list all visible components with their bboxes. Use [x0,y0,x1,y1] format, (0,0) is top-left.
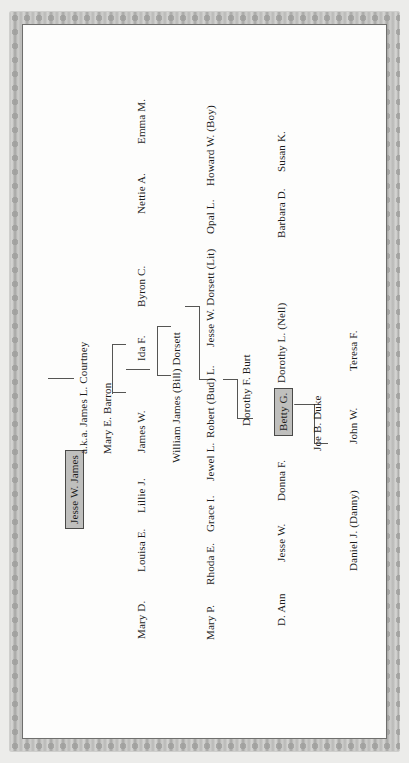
person-mary-e-barron[interactable]: Mary E. Barron [102,383,113,454]
person-d-ann[interactable]: D. Ann [276,593,287,626]
person-jewel-l[interactable]: Jewel L. [205,443,216,481]
person-john-w[interactable]: John W. [348,408,359,444]
family-tree-page: Jesse W. James a.k.a. James L. Courtney … [0,0,409,763]
person-nettie-a[interactable]: Nettie A. [136,173,147,214]
person-dorothy-l-nell[interactable]: Dorothy L. (Nell) [276,303,287,383]
person-jesse-w-dorsett-lit[interactable]: Jesse W. Dorsett (Lit) [205,249,216,347]
chart-canvas: Jesse W. James a.k.a. James L. Courtney … [24,26,385,737]
person-jesse-w-james[interactable]: Jesse W. James [65,450,84,529]
person-joe-b-duke[interactable]: Joe B. Duke [312,395,323,451]
connector-gen4-bracket-vertical [157,326,158,376]
person-aka-james-l-courtney[interactable]: a.k.a. James L. Courtney [78,342,89,454]
person-grace-i[interactable]: Grace I. [205,495,216,532]
person-louisa-e[interactable]: Louisa E. [136,529,147,572]
connector-gen6-bracket-vertical [237,379,238,419]
connector-gen5-union-vertical [199,306,200,380]
person-teresa-f[interactable]: Teresa F. [348,330,359,371]
connector-gen5-union-top [185,306,200,307]
person-opal-l[interactable]: Opal L. [205,199,216,234]
person-daniel-j-danny[interactable]: Daniel J. (Danny) [348,490,359,571]
connector-gen3-to-gen4 [126,369,150,370]
person-ida-f[interactable]: Ida F. [136,335,147,361]
connector-gen4-bracket-top [157,326,171,327]
person-dorothy-f-burt[interactable]: Dorothy F. Burt [241,354,252,426]
person-barbara-d[interactable]: Barbara D. [276,188,287,238]
connector-gen4-bracket-bottom [157,375,171,376]
person-mary-p[interactable]: Mary P. [205,605,216,640]
person-susan-k[interactable]: Susan K. [276,131,287,172]
person-mary-d[interactable]: Mary D. [136,601,147,639]
connector-gen6-bracket-top [223,379,238,380]
person-betty-g[interactable]: Betty G. [274,388,293,436]
person-byron-c[interactable]: Byron C. [136,266,147,307]
connector-gen3-bracket-bottom [112,392,126,393]
person-rhoda-e[interactable]: Rhoda E. [205,543,216,585]
person-emma-m[interactable]: Emma M. [136,99,147,144]
person-robert-bud-l[interactable]: Robert (Bud) L. [205,365,216,438]
connector-union-1 [48,378,74,379]
person-lillie-j[interactable]: Lillie J. [136,478,147,513]
connector-gen3-bracket-top [112,344,126,345]
person-donna-f[interactable]: Donna F. [276,460,287,501]
person-william-james-bill-dorsett[interactable]: William James (Bill) Dorsett [171,332,182,463]
person-jesse-w-2[interactable]: Jesse W. [276,524,287,562]
person-howard-w-boy[interactable]: Howard W. (Boy) [205,105,216,186]
person-james-w[interactable]: James W. [136,410,147,453]
